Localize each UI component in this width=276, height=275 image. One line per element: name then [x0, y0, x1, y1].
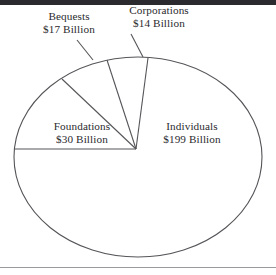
slice-label-bequests-name: Bequests — [26, 10, 112, 23]
bottom-divider-rule — [0, 267, 276, 268]
leader-line-corporations — [131, 34, 143, 57]
slice-label-corporations-name: Corporations — [112, 4, 206, 17]
slice-label-foundations: Foundations $30 Billion — [33, 120, 131, 145]
slice-label-bequests: Bequests $17 Billion — [26, 10, 112, 35]
slice-label-individuals-value: $199 Billion — [143, 133, 241, 146]
slice-label-individuals: Individuals $199 Billion — [143, 120, 241, 145]
pie-outline-ellipse — [14, 57, 262, 257]
slice-label-individuals-name: Individuals — [143, 120, 241, 133]
slice-label-corporations: Corporations $14 Billion — [112, 4, 206, 29]
slice-label-foundations-name: Foundations — [33, 120, 131, 133]
slice-label-bequests-value: $17 Billion — [26, 23, 112, 36]
leader-line-bequests — [77, 40, 93, 60]
slice-label-foundations-value: $30 Billion — [33, 133, 131, 146]
pie-chart-figure: Bequests $17 Billion Corporations $14 Bi… — [0, 0, 276, 275]
slice-label-corporations-value: $14 Billion — [112, 17, 206, 30]
